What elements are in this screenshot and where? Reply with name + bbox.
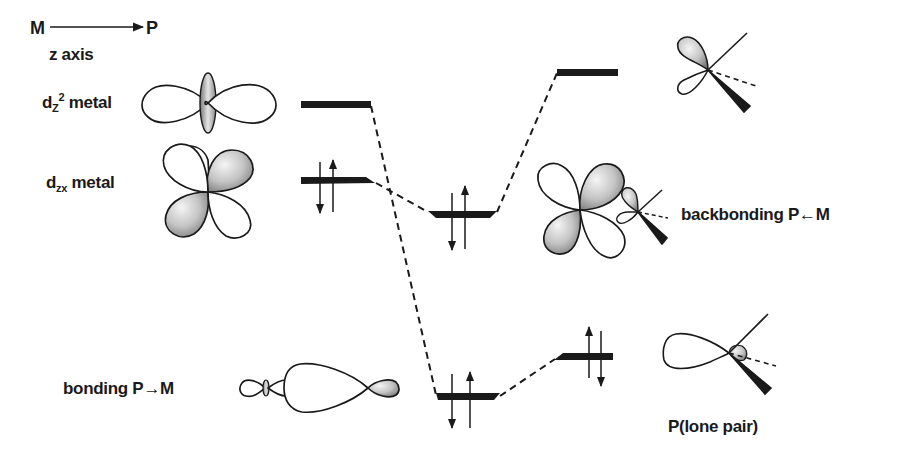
axis-label-m: M [30, 19, 45, 37]
label-dz2-metal: dZ2 metal [42, 94, 112, 111]
level-bonding-mo [436, 393, 500, 400]
label-backbonding: backbonding P←M [681, 206, 830, 223]
backbonding-orbital-icon [538, 164, 668, 258]
bonding-orbital-icon [240, 364, 399, 412]
mo-diagram: M P z axis dZ2 metal dzx metal backbondi… [0, 0, 903, 464]
dz2-orbital-icon [142, 73, 276, 133]
correlation-lines [371, 73, 557, 396]
level-p-lone-pair [554, 353, 613, 360]
axis-label-p: P [146, 19, 158, 37]
label-p-lone-pair: P(lone pair) [668, 418, 758, 435]
level-p-acceptor [557, 69, 618, 76]
dzx-orbital-icon [163, 144, 253, 238]
level-dzx-metal [301, 177, 375, 184]
label-bonding: bonding P→M [63, 380, 174, 397]
p-acceptor-orbital-icon [678, 33, 756, 112]
bonding-to-lonepair-line [500, 359, 555, 396]
axis-title: z axis [49, 46, 94, 63]
label-dzx-metal: dzx metal [46, 174, 114, 191]
dz2-to-bonding-line [371, 106, 436, 395]
dzx-to-backbonding-line [376, 183, 428, 212]
p-lone-pair-orbital-icon [663, 314, 776, 394]
level-backbonding-mo [428, 211, 497, 218]
level-dz2-metal [301, 101, 371, 108]
